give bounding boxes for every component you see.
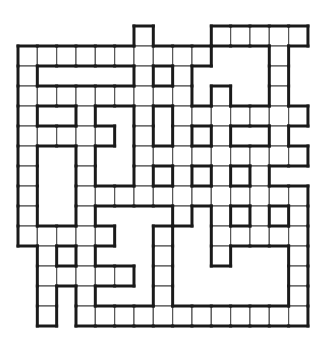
grid-cell[interactable] [192,106,211,126]
grid-cell[interactable] [250,106,269,126]
grid-cell[interactable] [18,46,37,66]
grid-cell[interactable] [57,226,76,246]
grid-cell[interactable] [231,306,250,326]
grid-cell[interactable] [173,46,192,66]
grid-cell[interactable] [231,26,250,46]
grid-cell[interactable] [18,186,37,206]
grid-cell[interactable] [250,306,269,326]
grid-cell[interactable] [57,126,76,146]
grid-cell[interactable] [76,86,95,106]
grid-cell[interactable] [37,226,56,246]
grid-cell[interactable] [134,106,153,126]
grid-cell[interactable] [95,186,114,206]
grid-cell[interactable] [173,206,192,226]
grid-cell[interactable] [211,26,230,46]
grid-cell[interactable] [57,46,76,66]
grid-cell[interactable] [269,86,288,106]
grid-cell[interactable] [76,266,95,286]
grid-cell[interactable] [289,186,308,206]
grid-cell[interactable] [211,106,230,126]
grid-cell[interactable] [115,186,134,206]
grid-cell[interactable] [250,186,269,206]
grid-cell[interactable] [115,306,134,326]
grid-cell[interactable] [37,246,56,266]
grid-cell[interactable] [76,46,95,66]
grid-cell[interactable] [192,186,211,206]
grid-cell[interactable] [76,186,95,206]
grid-cell[interactable] [269,146,288,166]
grid-cell[interactable] [289,226,308,246]
grid-cell[interactable] [37,86,56,106]
grid-cell[interactable] [153,266,172,286]
grid-cell[interactable] [76,206,95,226]
grid-cell[interactable] [95,86,114,106]
grid-cell[interactable] [153,226,172,246]
grid-cell[interactable] [134,26,153,46]
grid-cell[interactable] [76,126,95,146]
grid-cell[interactable] [153,86,172,106]
grid-cell[interactable] [231,186,250,206]
grid-cell[interactable] [37,46,56,66]
grid-cell[interactable] [134,186,153,206]
grid-cell[interactable] [95,126,114,146]
grid-cell[interactable] [289,146,308,166]
grid-cell[interactable] [269,126,288,146]
grid-cell[interactable] [18,66,37,86]
grid-cell[interactable] [95,46,114,66]
grid-cell[interactable] [250,226,269,246]
grid-cell[interactable] [134,166,153,186]
grid-cell[interactable] [18,146,37,166]
grid-cell[interactable] [269,306,288,326]
grid-cell[interactable] [18,106,37,126]
grid-cell[interactable] [211,206,230,226]
grid-cell[interactable] [211,86,230,106]
grid-cell[interactable] [95,306,114,326]
grid-cell[interactable] [57,266,76,286]
grid-cell[interactable] [211,146,230,166]
grid-cell[interactable] [173,186,192,206]
grid-cell[interactable] [76,146,95,166]
grid-cell[interactable] [153,46,172,66]
grid-cell[interactable] [18,226,37,246]
grid-cell[interactable] [153,186,172,206]
grid-cell[interactable] [211,306,230,326]
grid-cell[interactable] [134,66,153,86]
grid-cell[interactable] [76,106,95,126]
grid-cell[interactable] [76,306,95,326]
grid-cell[interactable] [57,86,76,106]
grid-cell[interactable] [95,226,114,246]
grid-cell[interactable] [115,86,134,106]
grid-cell[interactable] [231,226,250,246]
grid-cell[interactable] [211,246,230,266]
grid-cell[interactable] [18,126,37,146]
grid-cell[interactable] [231,106,250,126]
grid-cell[interactable] [250,206,269,226]
grid-cell[interactable] [192,46,211,66]
grid-cell[interactable] [289,206,308,226]
grid-cell[interactable] [37,306,56,326]
grid-cell[interactable] [18,206,37,226]
grid-cell[interactable] [211,166,230,186]
grid-cell[interactable] [134,126,153,146]
grid-cell[interactable] [250,166,269,186]
grid-cell[interactable] [18,166,37,186]
grid-cell[interactable] [269,46,288,66]
grid-cell[interactable] [289,286,308,306]
grid-cell[interactable] [37,286,56,306]
grid-cell[interactable] [76,246,95,266]
grid-cell[interactable] [115,266,134,286]
grid-cell[interactable] [173,66,192,86]
grid-cell[interactable] [134,306,153,326]
grid-cell[interactable] [134,46,153,66]
grid-cell[interactable] [192,306,211,326]
grid-cell[interactable] [153,146,172,166]
grid-cell[interactable] [211,186,230,206]
grid-cell[interactable] [76,226,95,246]
grid-cell[interactable] [289,266,308,286]
grid-cell[interactable] [76,286,95,306]
grid-cell[interactable] [289,246,308,266]
grid-cell[interactable] [18,86,37,106]
grid-cell[interactable] [192,146,211,166]
grid-cell[interactable] [173,166,192,186]
grid-cell[interactable] [95,266,114,286]
